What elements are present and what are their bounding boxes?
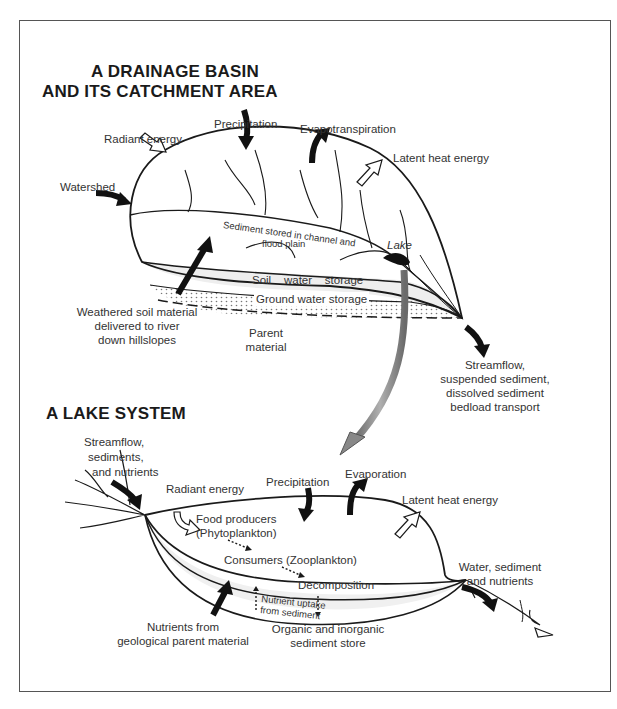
label-outflow: Water, sediment and nutrients (440, 560, 560, 588)
label-parent-material: Parent material (236, 326, 296, 354)
label-latent-heat-lake: Latent heat energy (402, 493, 498, 507)
label-flood-plain: flood plain (262, 238, 305, 249)
label-lake: Lake (387, 238, 412, 252)
text-line: and nutrients (440, 574, 560, 588)
label-precipitation: Precipitation (214, 117, 277, 131)
label-radiant-energy: Radiant energy (104, 132, 182, 146)
label-evaporation: Evaporation (345, 467, 406, 481)
outflow-arrow (462, 587, 498, 612)
text-line: delivered to river (72, 319, 202, 333)
label-streamflow-outputs: Streamflow, suspended sediment, dissolve… (430, 358, 560, 414)
text-line: dissolved sediment (430, 386, 560, 400)
text-line: geological parent material (108, 634, 258, 648)
latent-heat-arrow-1 (357, 160, 382, 186)
text-line: and nutrients (84, 465, 159, 480)
label-soil-water-storage: Soil water storage (252, 273, 363, 287)
label-weathered-soil: Weathered soil material delivered to riv… (72, 305, 202, 347)
text-line: Organic and inorganic (268, 622, 388, 636)
precipitation-arrow-2 (298, 488, 314, 522)
title-line: A DRAINAGE BASIN (60, 62, 290, 82)
drainage-basin-title: A DRAINAGE BASIN (60, 62, 290, 82)
lake-system-title: A LAKE SYSTEM (46, 404, 186, 424)
text-line: Water, sediment (440, 560, 560, 574)
text-line: Streamflow, (84, 435, 159, 450)
text-line: Weathered soil material (72, 305, 202, 319)
text-line: bedload transport (430, 400, 560, 414)
label-food-producers: Food producers (Phytoplankton) (196, 512, 277, 540)
label-consumers: Consumers (Zooplankton) (224, 553, 357, 567)
label-evapotranspiration: Evapotranspiration (300, 122, 396, 136)
text-line: Parent (236, 326, 296, 340)
label-ground-water-storage: Ground water storage (254, 292, 369, 306)
label-radiant-energy-lake: Radiant energy (166, 482, 244, 496)
weathered-soil-arrow (178, 236, 213, 294)
label-nutrients-parent: Nutrients from geological parent materia… (108, 620, 258, 648)
text-line: sediment store (268, 636, 388, 650)
text-line: material (236, 340, 296, 354)
text-line: suspended sediment, (430, 372, 560, 386)
label-latent-heat: Latent heat energy (393, 151, 489, 165)
text-line: Streamflow, (430, 358, 560, 372)
text-line: down hillslopes (72, 333, 202, 347)
text-line: (Phytoplankton) (196, 526, 277, 540)
text-line: Nutrients from (108, 620, 258, 634)
streamflow-arrow (466, 327, 490, 358)
label-inflow: Streamflow, sediments, and nutrients (84, 435, 159, 480)
text-line: Food producers (196, 512, 277, 526)
label-sediment-store: Organic and inorganic sediment store (268, 622, 388, 650)
label-watershed: Watershed (60, 180, 115, 194)
drainage-basin-subtitle: AND ITS CATCHMENT AREA (42, 82, 278, 102)
latent-heat-arrow-2 (395, 512, 420, 538)
watershed-arrow (96, 192, 132, 206)
text-line: sediments, (84, 450, 159, 465)
label-decomposition: Decomposition (298, 578, 374, 592)
label-precipitation-lake: Precipitation (266, 475, 329, 489)
